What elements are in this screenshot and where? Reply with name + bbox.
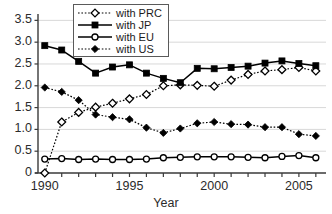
series-with-us <box>41 84 319 140</box>
legend-item-with-prc: with PRC <box>77 7 165 19</box>
chart-figure: 00.51.01.52.02.53.03.5 1990199520002005 … <box>0 0 332 214</box>
y-tick-label: 0.5 <box>2 143 32 157</box>
x-tick-label: 2000 <box>192 179 236 193</box>
y-tick-label: 3.5 <box>2 12 32 26</box>
y-tick-label: 0 <box>2 165 32 179</box>
legend-label-with-us: with US <box>116 43 154 55</box>
legend-sample-with-eu <box>77 31 113 43</box>
legend-sample-with-prc <box>77 7 113 19</box>
series-with-eu <box>42 153 319 163</box>
legend-item-with-jp: with JP <box>77 19 165 31</box>
legend-label-with-prc: with PRC <box>116 7 162 19</box>
legend-sample-with-us <box>77 43 113 55</box>
legend-item-with-eu: with EU <box>77 31 165 43</box>
x-tick-label: 1990 <box>23 179 67 193</box>
chart-legend: with PRC with JP with EU with US <box>73 4 169 57</box>
legend-sample-with-jp <box>77 19 113 31</box>
y-tick-label: 1.0 <box>2 121 32 135</box>
y-tick-label: 3.0 <box>2 34 32 48</box>
legend-label-with-jp: with JP <box>116 19 151 31</box>
x-tick-label: 1995 <box>107 179 151 193</box>
y-tick-label: 2.0 <box>2 78 32 92</box>
legend-label-with-eu: with EU <box>116 31 154 43</box>
x-tick-label: 2005 <box>277 179 321 193</box>
y-tick-label: 1.5 <box>2 100 32 114</box>
x-axis-title: Year <box>0 196 332 210</box>
legend-item-with-us: with US <box>77 43 165 55</box>
y-tick-label: 2.5 <box>2 56 32 70</box>
data-series-layer <box>41 43 320 177</box>
